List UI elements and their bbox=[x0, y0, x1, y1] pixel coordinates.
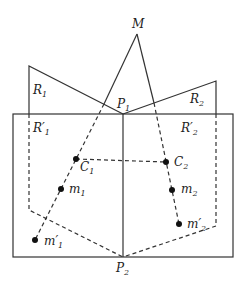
label-r2: R2 bbox=[189, 92, 204, 108]
label-r2-prime: R′2 bbox=[180, 121, 198, 137]
label-p1: P1 bbox=[116, 97, 130, 113]
point-c1 bbox=[73, 156, 79, 162]
label-m1-prime: m′1 bbox=[44, 234, 63, 250]
label-m2: m2 bbox=[181, 182, 197, 198]
ray-m-to-r1 bbox=[104, 34, 137, 104]
label-c2: C2 bbox=[174, 155, 188, 171]
ray-m-to-r2 bbox=[137, 34, 154, 103]
label-r1: R1 bbox=[32, 83, 47, 99]
point-m2 bbox=[169, 187, 175, 193]
point-m2-prime bbox=[176, 221, 182, 227]
point-c2 bbox=[163, 159, 169, 165]
label-m1: m1 bbox=[69, 182, 85, 198]
label-c1: C1 bbox=[80, 160, 94, 176]
point-m1 bbox=[58, 186, 64, 192]
r2-plane bbox=[123, 81, 216, 114]
r2-prime-plane bbox=[123, 114, 216, 257]
label-p2: P2 bbox=[115, 261, 129, 277]
label-r1-prime: R′1 bbox=[32, 121, 50, 137]
point-m1-prime bbox=[32, 237, 38, 243]
label-m2-prime: m′2 bbox=[187, 217, 206, 233]
stereo-reflection-diagram: M R1 R2 R′1 R′2 P1 P2 C1 C2 m1 m2 m′1 m′… bbox=[0, 0, 244, 285]
c1-c2-baseline bbox=[76, 159, 166, 162]
label-m: M bbox=[131, 17, 145, 31]
